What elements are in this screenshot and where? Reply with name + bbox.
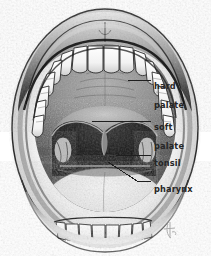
- label-hard-palate-line1: hard: [154, 81, 176, 91]
- label-pharynx-line1: pharynx: [154, 184, 193, 194]
- tonsil-left: [54, 137, 72, 163]
- label-hard-palate: hard palate: [154, 73, 184, 111]
- label-tonsil: tonsil: [154, 150, 181, 169]
- label-pharynx: pharynx: [154, 176, 193, 195]
- label-tonsil-line1: tonsil: [154, 158, 181, 168]
- anatomy-figure: hard palate soft palate tonsil pharynx: [0, 0, 211, 256]
- label-hard-palate-line2: palate: [154, 100, 184, 110]
- label-soft-palate: soft palate: [154, 114, 184, 152]
- label-soft-palate-line1: soft: [154, 122, 173, 132]
